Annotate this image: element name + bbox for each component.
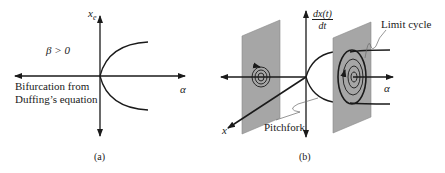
panel-b-diagram [221, 11, 393, 137]
limit-cycle-label: Limit cycle [381, 18, 431, 30]
a-description-line2: Duffing’s equation [15, 93, 98, 105]
a-condition-label: β > 0 [46, 44, 70, 56]
b-depth-axis-label: x [222, 124, 227, 136]
pitchfork-label: Pitchfork [264, 121, 305, 133]
a-x-axis-label: α [180, 83, 186, 95]
b-y-axis-label: dx(t) dt [312, 8, 333, 31]
a-y-axis-label: xe [88, 7, 96, 24]
b-x-axis-label: α [384, 82, 390, 94]
a-caption: (a) [94, 151, 105, 163]
b-pitchfork-curve [306, 52, 333, 102]
panel-a-diagram [15, 16, 185, 136]
b-caption: (b) [299, 151, 311, 163]
a-description-line1: Bifurcation from [15, 80, 89, 92]
pitchfork-leader [276, 98, 318, 120]
